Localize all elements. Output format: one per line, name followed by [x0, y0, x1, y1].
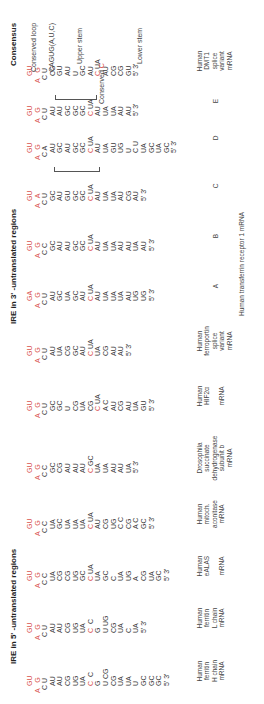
base-pair-row: AU: [117, 317, 125, 363]
base-pair-row: UG: [72, 542, 80, 588]
base-pair-row: UA: [94, 542, 102, 588]
base-pair-row: GC: [102, 542, 110, 588]
base-pair-row: AU: [49, 647, 57, 693]
base-pair-row: C UA: [87, 212, 95, 258]
loop-sides: A G: [34, 647, 42, 693]
base-pair-row: 5' 3': [148, 372, 156, 418]
base-pair-row: C UA: [87, 262, 95, 308]
base-pair-row: 5' 3': [163, 542, 171, 588]
structure-label: HumanDMT1splicevariantmRNA: [196, 31, 233, 91]
base-pair-row: AU: [110, 434, 118, 480]
base-pair-row: UG: [72, 594, 80, 640]
base-pair-row: GC: [163, 114, 171, 160]
loop-top: GU: [26, 212, 34, 258]
base-pair-row: GU: [56, 37, 64, 83]
base-pair-row: UA: [140, 114, 148, 160]
base-pair-row: CG: [125, 490, 133, 536]
base-pair-row: CG: [110, 594, 118, 640]
base-pair-row: UA: [49, 542, 57, 588]
base-pair-row: CG: [64, 594, 72, 640]
base-pair-row: AU: [125, 77, 133, 123]
base-pair-row: CG: [102, 317, 110, 363]
loop-sides: A G: [34, 594, 42, 640]
base-pair-row: GC: [148, 647, 156, 693]
base-pair-row: C C: [87, 647, 95, 693]
base-pair-row: C U: [41, 317, 49, 363]
base-pair-row: GC: [72, 212, 80, 258]
base-pair-row: UA: [102, 262, 110, 308]
base-pair-row: C UA: [94, 372, 102, 418]
base-pair-row: AU: [64, 212, 72, 258]
base-pair-row: UG: [140, 262, 148, 308]
ire-structure-tfr-b: GUA GC CGCAUAUGCGCC UAAUUAUAAUAUUAAU5' 3…: [26, 212, 155, 258]
base-pair-row: AU: [79, 262, 87, 308]
base-pair-row: CG: [110, 37, 118, 83]
structure-label: HumaneALASmRNA: [196, 536, 226, 596]
base-pair-row: AU: [117, 162, 125, 208]
base-pair-row: GC: [72, 262, 80, 308]
base-pair-row: CG: [56, 542, 64, 588]
loop-sides: A G: [34, 317, 42, 363]
consensus-header: Consensus: [9, 23, 18, 66]
base-pair-row: C UA: [87, 77, 95, 123]
base-pair-row: C C: [41, 542, 49, 588]
conserved-c-label: Conserved C: [98, 63, 105, 104]
base-pair-row: U: [64, 372, 72, 418]
ire-figure: IRE in 5' -untranslated regions IRE in 3…: [0, 0, 264, 704]
base-pair-row: AU: [117, 434, 125, 480]
base-pair-row: U: [132, 647, 140, 693]
base-pair-row: AU: [64, 434, 72, 480]
base-pair-row: UA: [110, 212, 118, 258]
base-pair-row: GC: [64, 77, 72, 123]
base-pair-row: UA: [132, 594, 140, 640]
ire-structure-tfr-a: GAA GC UAUGCUAGCAUC UAAUUAUAUAAUUGUG5' 3…: [26, 262, 155, 308]
base-pair-row: UG: [72, 647, 80, 693]
ire-structure-tfr-e: GUA GC UAUAUGCGCGCC UAAUUAUAAUAU5' 3': [26, 77, 140, 123]
loop-sides: A G: [34, 490, 42, 536]
base-pair-row: AU: [125, 372, 133, 418]
base-pair-row: CG: [117, 372, 125, 418]
base-pair-row: C: [110, 542, 118, 588]
base-pair-row: AU: [49, 317, 57, 363]
base-pair-row: GC: [79, 542, 87, 588]
ire-structure-ferritin-h: GUA GC UAUAUCGUGUAC CGU CGCGUAUAUGCGCGC5…: [26, 647, 170, 693]
base-pair-row: C C: [87, 594, 95, 640]
base-pair-row: UA: [79, 372, 87, 418]
base-pair-row: AU: [94, 262, 102, 308]
base-pair-row: AU: [49, 594, 57, 640]
loop-sides: A G: [34, 434, 42, 480]
ire-structure-aconitase: GUA GC CUAGCUAUAUAC UAAUCGUGC CCGA CGC5'…: [26, 490, 155, 536]
base-pair-row: AU: [110, 372, 118, 418]
base-pair-row: UA: [94, 434, 102, 480]
loop-sides: A G: [34, 262, 42, 308]
conserved-loop-sequence: CAGUG(A,U,C): [48, 23, 55, 72]
base-pair-row: AU: [140, 212, 148, 258]
ire-structure-drosophila-sdh: GUA GC CGCCGAUAUAUC GCUAUAAUAUUA5' 3': [26, 434, 140, 480]
base-pair-row: A: [132, 542, 140, 588]
tfr-group-label: Human transferrin receptor 1 mRNA: [238, 154, 245, 374]
base-pair-row: UA: [79, 647, 87, 693]
base-pair-row: CG: [64, 647, 72, 693]
base-pair-row: 5' 3': [148, 212, 156, 258]
base-pair-row: CG: [87, 372, 95, 418]
loop-top: GU: [26, 647, 34, 693]
structure-label: Humanmitoch.aconitasemRNA: [196, 484, 226, 544]
base-pair-row: 5' 3': [132, 77, 140, 123]
base-pair-row: AU: [125, 212, 133, 258]
base-pair-row: C: [125, 594, 133, 640]
ire-structure-ferritin-l: GUA GC UAUAUCGUGUAC CGU UGCGUACUA5' 3': [26, 594, 148, 640]
base-pair-row: A C: [132, 490, 140, 536]
base-pair-row: AU: [117, 212, 125, 258]
base-pair-row: G: [94, 594, 102, 640]
base-pair-row: CG: [64, 317, 72, 363]
base-pair-row: AU: [94, 212, 102, 258]
base-pair-row: CG: [140, 542, 148, 588]
loop-top: GU: [26, 317, 34, 363]
loop-sides: A G: [34, 77, 42, 123]
base-pair-row: UA: [110, 162, 118, 208]
base-pair-row: GC: [56, 372, 64, 418]
base-pair-row: UA: [110, 77, 118, 123]
base-pair-row: UA: [117, 647, 125, 693]
base-pair-row: UA: [155, 114, 163, 160]
base-pair-row: GC: [56, 262, 64, 308]
